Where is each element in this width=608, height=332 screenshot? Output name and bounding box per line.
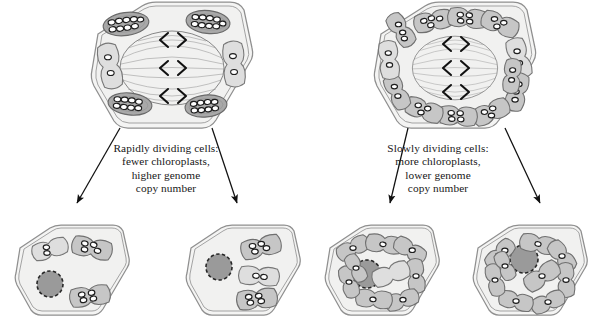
rapidly-dividing-daughter-cell-2: [186, 225, 300, 315]
slowly-dividing-label: Slowly dividing cells: more chloroplasts…: [362, 142, 514, 196]
rapidly-dividing-label: Rapidly dividing cells: fewer chloroplas…: [90, 142, 242, 196]
slowly-dividing-parent-cell: [374, 2, 535, 129]
slowly-dividing-daughter-cell-2: [473, 225, 587, 316]
nucleus: [206, 254, 232, 280]
rapidly-dividing-parent-cell: [91, 2, 252, 128]
diagram-canvas: .wallOuter{fill:#f4f4f3;stroke:#8f8f8f;s…: [0, 0, 608, 332]
rapidly-dividing-daughter-cell-1: [15, 225, 129, 315]
nucleus: [37, 271, 63, 297]
slowly-dividing-daughter-cell-1: [325, 225, 439, 315]
